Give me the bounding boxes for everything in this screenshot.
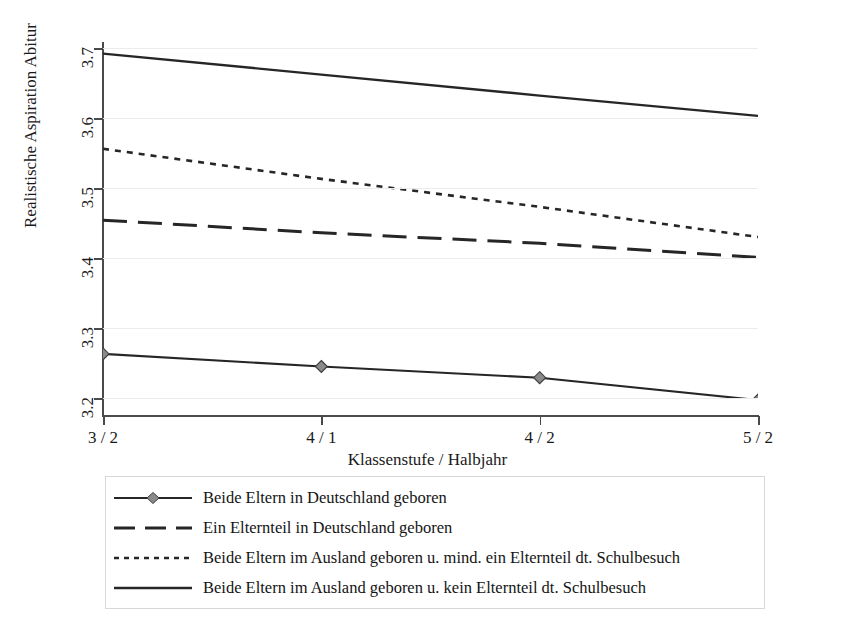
gridline [103,328,758,329]
y-tick-label: 3.3 [0,328,92,329]
gridline [103,398,758,399]
x-tick [321,416,323,425]
legend-label: Beide Eltern in Deutschland geboren [203,488,447,508]
y-tick-label: 3.4 [0,258,92,259]
series-marker-diamond [534,372,546,384]
y-axis-label: Realistische Aspiration Abitur [21,23,41,228]
y-tick-label: 3.5 [0,188,92,189]
legend-item[interactable]: Beide Eltern im Ausland geboren u. mind.… [106,543,764,573]
legend-marker-diamond [147,493,159,504]
x-tick [758,416,760,425]
y-tick-label: 3.2 [0,398,92,399]
legend-item[interactable]: Beide Eltern im Ausland geboren u. kein … [106,573,764,603]
y-tick-label-text: 3.4 [78,257,98,278]
series-marker-diamond [103,348,109,360]
x-axis-label: Klassenstufe / Halbjahr [0,450,855,470]
legend-swatch-long-dash [113,521,193,535]
y-tick-label: 3.6 [0,118,92,119]
y-tick-label-text: 3.6 [78,117,98,138]
y-tick-label-text: 3.7 [78,47,98,68]
chart-legend: Beide Eltern in Deutschland geborenEin E… [105,476,765,609]
x-tick-label: 5 / 2 [743,428,773,448]
legend-item[interactable]: Ein Elternteil in Deutschland geboren [106,513,764,543]
y-tick-label-text: 3.5 [78,187,98,208]
series-svg [103,48,758,398]
legend-label: Beide Eltern im Ausland geboren u. kein … [203,578,646,598]
y-tick-label: 3.7 [0,48,92,49]
series-marker-diamond [315,361,327,373]
series-line [103,220,758,257]
gridline [103,188,758,189]
x-axis-line [102,415,759,417]
series-line [103,354,758,398]
chart-figure: Realistische Aspiration Abitur 3.23.33.4… [0,0,855,631]
legend-swatch-solid [113,581,193,595]
x-tick-label: 4 / 1 [306,428,336,448]
legend-swatch-dotted [113,551,193,565]
legend-swatch-solid-marker [113,491,193,505]
legend-label: Ein Elternteil in Deutschland geboren [203,518,452,538]
plot-area [103,48,758,398]
gridline [103,48,758,49]
x-tick [540,416,542,425]
y-tick-label-text: 3.3 [78,327,98,348]
gridline [103,258,758,259]
series-line [103,54,758,116]
x-tick-label: 3 / 2 [88,428,118,448]
y-tick-label-text: 3.2 [78,397,98,418]
top-partial-text [0,0,855,14]
x-tick-label: 4 / 2 [525,428,555,448]
legend-item[interactable]: Beide Eltern in Deutschland geboren [106,483,764,513]
series-line [103,149,758,237]
gridline [103,118,758,119]
legend-label: Beide Eltern im Ausland geboren u. mind.… [203,548,680,568]
x-tick [103,416,105,425]
